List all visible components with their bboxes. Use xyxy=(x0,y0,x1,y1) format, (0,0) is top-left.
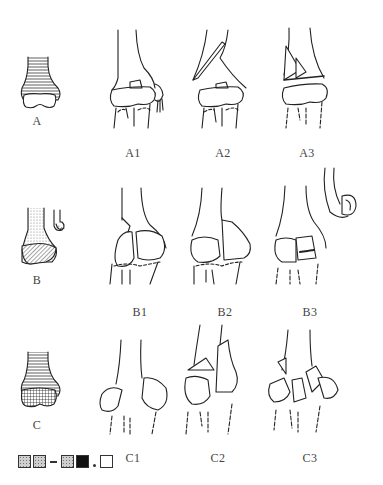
fracture-diagram xyxy=(0,0,383,485)
drawing-a1 xyxy=(110,30,163,128)
subgroup-label-b3: B3 xyxy=(302,306,317,318)
drawing-c1 xyxy=(100,340,167,434)
legend-dot xyxy=(93,464,96,467)
subgroup-label-b2: B2 xyxy=(217,306,232,318)
legend-swatch-white xyxy=(100,455,113,468)
drawing-a2 xyxy=(193,30,246,128)
drawing-a3 xyxy=(282,28,327,128)
subgroup-label-a3: A3 xyxy=(299,147,315,159)
type-label-a: A xyxy=(32,115,41,127)
subgroup-label-b1: B1 xyxy=(132,306,147,318)
type-label-c: C xyxy=(33,419,42,431)
schematic-type-b xyxy=(22,208,64,264)
legend-swatch-stippled xyxy=(33,455,46,468)
drawing-c3 xyxy=(269,330,338,432)
subgroup-label-a1: A1 xyxy=(125,147,141,159)
drawing-b2 xyxy=(191,188,251,284)
subgroup-label-c1: C1 xyxy=(125,452,140,464)
drawing-c2 xyxy=(185,325,237,434)
type-label-b: B xyxy=(33,274,42,286)
schematic-type-a xyxy=(21,57,60,108)
legend-swatch-stippled xyxy=(18,455,31,468)
drawing-b1 xyxy=(110,188,166,284)
subgroup-label-c3: C3 xyxy=(302,452,317,464)
legend-dash xyxy=(50,461,57,463)
legend-swatch-black xyxy=(76,455,89,468)
schematic-type-c xyxy=(21,352,60,407)
drawing-b3 xyxy=(275,168,356,284)
legend-swatch-stippled xyxy=(61,455,74,468)
severity-legend xyxy=(18,455,113,468)
subgroup-label-a2: A2 xyxy=(215,147,231,159)
subgroup-label-c2: C2 xyxy=(210,452,225,464)
